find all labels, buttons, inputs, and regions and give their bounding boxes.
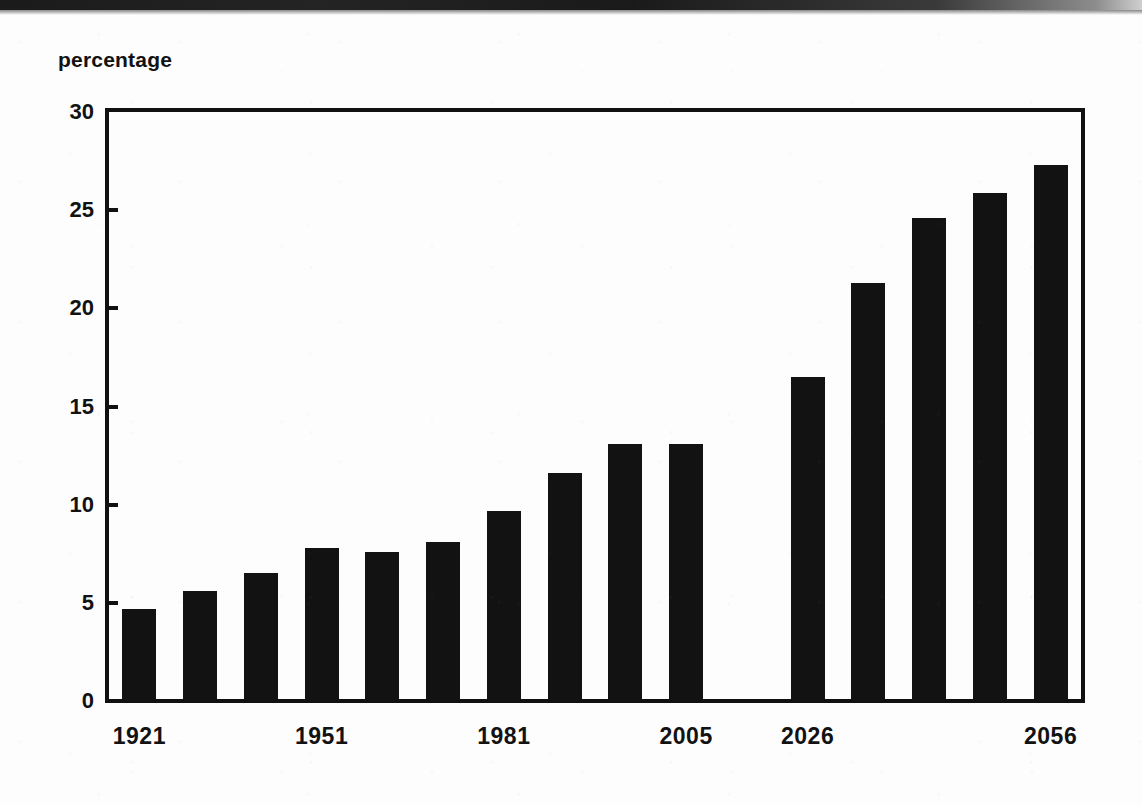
bar-2026 [791, 377, 825, 701]
bar-1971 [426, 542, 460, 701]
bar-1981 [487, 511, 521, 701]
bar-2041 [912, 218, 946, 701]
bar-1931 [183, 591, 217, 701]
x-tick-label-1921: 1921 [79, 723, 199, 750]
y-tick-label-30: 30 [50, 99, 94, 125]
y-tick-mark-20 [105, 306, 118, 310]
bar-2051 [973, 193, 1007, 702]
y-tick-label-15: 15 [50, 394, 94, 420]
bar-2031 [851, 283, 885, 701]
y-axis-tick-labels: 302520151050 [42, 0, 94, 805]
bar-1921 [122, 609, 156, 701]
bar-2056 [1034, 165, 1068, 701]
bar-2001 [608, 444, 642, 701]
y-tick-label-10: 10 [50, 492, 94, 518]
x-tick-label-1951: 1951 [262, 723, 382, 750]
bar-1991 [548, 473, 582, 701]
x-tick-label-2026: 2026 [748, 723, 868, 750]
x-tick-label-2056: 2056 [991, 723, 1111, 750]
bar-1951 [305, 548, 339, 701]
y-tick-mark-5 [105, 601, 118, 605]
bar-2005 [669, 444, 703, 701]
y-tick-mark-10 [105, 503, 118, 507]
x-tick-label-2005: 2005 [626, 723, 746, 750]
y-tick-label-5: 5 [50, 590, 94, 616]
y-tick-label-25: 25 [50, 197, 94, 223]
y-tick-label-20: 20 [50, 295, 94, 321]
bar-1961 [365, 552, 399, 701]
bar-chart-figure: percentage 302520151050 1921195119812005… [0, 0, 1142, 805]
x-tick-label-1981: 1981 [444, 723, 564, 750]
bar-1941 [244, 573, 278, 701]
y-tick-mark-15 [105, 405, 118, 409]
bars-container [109, 112, 1081, 701]
y-tick-mark-25 [105, 208, 118, 212]
y-tick-label-0: 0 [50, 688, 94, 714]
